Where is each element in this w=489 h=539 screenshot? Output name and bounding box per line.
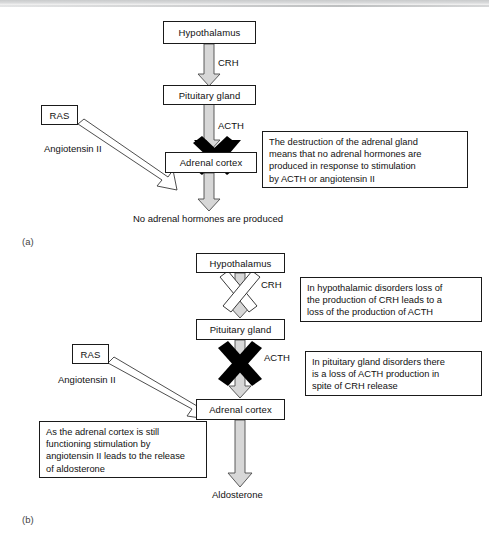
node-pituitary-a[interactable]: Pituitary gland <box>163 85 256 105</box>
edge-label-angiotensin-b: Angiotensin II <box>58 374 116 385</box>
arrow-outcome-a <box>198 173 220 211</box>
node-adrenal-cortex-b[interactable]: Adrenal cortex <box>196 399 285 420</box>
block-cross-crh-b <box>220 271 260 312</box>
callout-adrenal-destruction-a: The destruction of the adrenal gland mea… <box>262 131 468 188</box>
callout-line: functioning stimulation by <box>46 438 201 450</box>
block-cross-acth-b <box>218 341 262 386</box>
node-label: Hypothalamus <box>210 258 272 269</box>
callout-line: by ACTH or angiotensin II <box>269 173 462 185</box>
panel-label-b: (b) <box>22 514 34 525</box>
callout-line: the production of CRH leads to a <box>307 294 476 306</box>
edge-label-crh-a: CRH <box>218 57 239 68</box>
callout-pituitary-disorders-b: In pituitary gland disorders there is a … <box>305 351 482 396</box>
arrow-crh-b <box>229 273 251 318</box>
node-label: RAS <box>81 349 101 360</box>
node-label: Adrenal cortex <box>209 404 272 415</box>
callout-line: The destruction of the adrenal gland <box>269 136 462 148</box>
node-hypothalamus-b[interactable]: Hypothalamus <box>196 253 285 273</box>
arrow-acth-b <box>229 340 251 398</box>
node-hypothalamus-a[interactable]: Hypothalamus <box>163 21 256 44</box>
figure-canvas: Hypothalamus Pituitary gland Adrenal cor… <box>0 0 489 539</box>
node-label: Adrenal cortex <box>180 157 243 168</box>
callout-line: of aldosterone <box>46 463 201 475</box>
node-adrenal-cortex-a[interactable]: Adrenal cortex <box>165 152 257 173</box>
arrow-angiotensin-b <box>108 357 207 419</box>
node-pituitary-b[interactable]: Pituitary gland <box>196 319 285 340</box>
panel-label-a: (a) <box>22 236 34 247</box>
node-ras-b[interactable]: RAS <box>72 344 109 364</box>
scan-edge-artifact-line <box>0 5 489 7</box>
outcome-label-b: Aldosterone <box>212 489 263 500</box>
node-ras-a[interactable]: RAS <box>41 105 78 125</box>
callout-line: As the adrenal cortex is still <box>46 426 201 438</box>
callout-hypothalamic-disorders-b: In hypothalamic disorders loss of the pr… <box>300 277 482 322</box>
edge-label-angiotensin-a: Angiotensin II <box>44 143 102 154</box>
callout-line: In hypothalamic disorders loss of <box>307 282 476 294</box>
node-label: Pituitary gland <box>179 90 241 101</box>
node-label: Pituitary gland <box>210 324 272 335</box>
callout-line: means that no adrenal hormones are <box>269 148 462 160</box>
callout-line: loss of the production of ACTH <box>307 306 476 318</box>
outcome-label-a: No adrenal hormones are produced <box>133 213 283 224</box>
edge-label-crh-b: CRH <box>261 279 282 290</box>
arrow-crh-a <box>198 44 220 86</box>
callout-adrenal-intact-b: As the adrenal cortex is still functioni… <box>39 421 207 478</box>
arrow-angiotensin-a <box>78 119 177 190</box>
callout-line: produced in response to stimulation <box>269 160 462 172</box>
arrow-aldosterone-b <box>228 420 252 487</box>
callout-line: is a loss of ACTH production in <box>312 368 476 380</box>
edge-label-acth-b: ACTH <box>264 352 290 363</box>
callout-line: spite of CRH release <box>312 380 476 392</box>
edge-label-acth-a: ACTH <box>218 120 244 131</box>
callout-line: angiotensin II leads to the release <box>46 450 201 462</box>
node-label: RAS <box>50 110 70 121</box>
node-label: Hypothalamus <box>179 27 241 38</box>
callout-line: In pituitary gland disorders there <box>312 356 476 368</box>
arrow-acth-a <box>198 104 220 152</box>
